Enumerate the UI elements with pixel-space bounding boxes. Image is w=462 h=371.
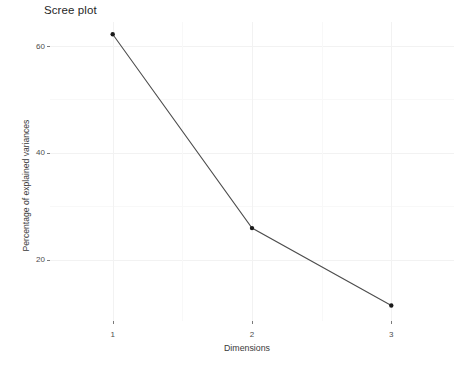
x-tick-label: 1 bbox=[98, 330, 128, 339]
x-tick-label: 2 bbox=[237, 330, 267, 339]
x-tick-label: 3 bbox=[376, 330, 406, 339]
x-axis-title: Dimensions bbox=[50, 343, 444, 353]
x-tick-mark bbox=[113, 321, 114, 324]
scree-plot-figure: Scree plot Percentage of explained varia… bbox=[0, 0, 462, 371]
x-tick-mark bbox=[252, 321, 253, 324]
x-axis-ticks: 123 bbox=[0, 0, 462, 371]
x-tick-mark bbox=[391, 321, 392, 324]
